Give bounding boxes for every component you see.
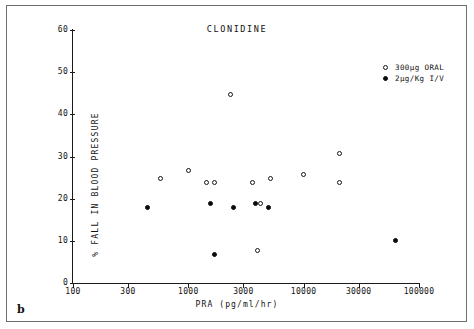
x-axis-line [72,283,420,284]
data-point [145,205,150,210]
data-point [258,201,263,206]
x-tick-label: 300 [120,288,135,296]
x-tick-label: 3000 [233,288,253,296]
y-tick-label: 40 [44,110,68,118]
y-axis-label: % FALL IN BLOOD PRESSURE [91,100,100,270]
plot-area: % FALL IN BLOOD PRESSURE [73,30,419,283]
y-tick-label: 30 [44,153,68,161]
legend-label: 2µg/Kg I/V [395,73,444,84]
data-point [337,180,342,185]
y-tick-label: 10 [44,237,68,245]
data-point [231,205,236,210]
data-point [208,201,213,206]
data-point [212,252,217,257]
legend-label: 300µg ORAL [395,62,444,73]
x-tick-label: 10000 [291,288,317,296]
data-point [212,180,217,185]
data-point [158,176,163,181]
data-point [186,168,191,173]
data-point [393,238,398,243]
x-tick-label: 100 [65,288,80,296]
y-tick-label: 0 [44,279,68,287]
y-tick-label: 20 [44,195,68,203]
data-point [255,248,260,253]
x-tick-label: 30000 [346,288,372,296]
open-circle-icon [383,65,388,70]
legend: 300µg ORAL2µg/Kg I/V [382,62,444,84]
data-point [253,201,258,206]
data-point [250,180,255,185]
y-tick-label: 60 [44,26,68,34]
data-point [266,205,271,210]
panel-letter: b [17,303,25,316]
data-point [301,172,306,177]
x-tick-label: 1000 [178,288,198,296]
x-axis-label: PRA (pg/ml/hr) [0,300,474,309]
x-tick-label: 100000 [404,288,435,296]
data-point [228,92,233,97]
y-tick-label: 50 [44,68,68,76]
legend-item: 2µg/Kg I/V [382,73,444,84]
data-point [204,180,209,185]
figure-panel: CLONIDINE 0102030405060 1003001000300010… [0,0,474,329]
legend-item: 300µg ORAL [382,62,444,73]
filled-circle-icon [383,76,388,81]
data-point [337,151,342,156]
data-point [268,176,273,181]
